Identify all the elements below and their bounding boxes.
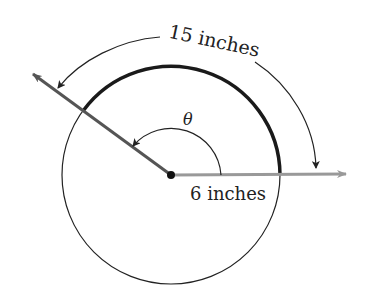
intercepted-arc	[83, 66, 280, 175]
angle-label: θ	[183, 110, 193, 129]
radian-measure-diagram: 15 inches θ 6 inches	[0, 0, 372, 286]
arc-length-label: 15 inches	[167, 20, 262, 61]
center-point	[167, 171, 175, 179]
arc-length-arrow-left	[58, 37, 160, 88]
radius-label: 6 inches	[190, 183, 266, 204]
angle-theta-arc	[133, 128, 221, 175]
initial-ray	[171, 174, 346, 175]
arc-length-arrow-right	[255, 62, 316, 168]
